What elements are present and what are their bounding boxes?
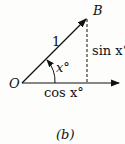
caption: (b) (56, 127, 74, 142)
hypotenuse-label: 1 (52, 34, 60, 49)
angle-label: x° (56, 60, 70, 75)
cosine-label: cos x° (44, 85, 84, 100)
unit-circle-triangle-diagram: O B 1 sin x° x° cos x° (b) (0, 0, 125, 144)
angle-arc (47, 60, 55, 83)
diagram-canvas: O B 1 sin x° x° cos x° (b) (0, 0, 125, 144)
origin-label: O (9, 76, 20, 91)
sine-label: sin x° (92, 43, 125, 58)
point-b-label: B (92, 3, 103, 18)
